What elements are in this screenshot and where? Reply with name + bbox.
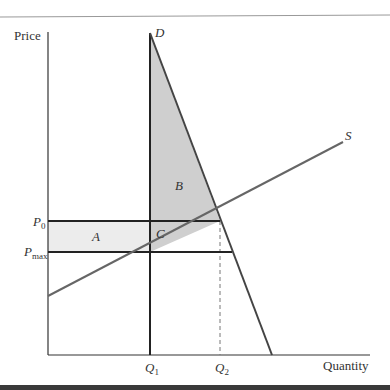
region-b-c-shading	[150, 33, 220, 252]
diagram-page: Price Quantity D S P0 Pmax Q1 Q2 A B C	[0, 0, 390, 390]
p0-label: P0	[32, 214, 46, 231]
p0-sub: 0	[41, 221, 46, 231]
q2-label: Q2	[215, 360, 229, 377]
region-c-label: C	[156, 226, 165, 241]
region-a-label: A	[91, 229, 100, 244]
p0-base: P	[32, 214, 41, 229]
top-rule	[0, 15, 390, 17]
x-axis-label: Quantity	[323, 358, 369, 373]
region-b-label: B	[175, 178, 183, 193]
demand-label: D	[154, 25, 165, 40]
price-ceiling-diagram: Price Quantity D S P0 Pmax Q1 Q2 A B C	[0, 0, 390, 390]
q1-label: Q1	[145, 360, 159, 377]
bottom-bar	[0, 385, 390, 390]
pmax-label: Pmax	[23, 244, 48, 261]
supply-label: S	[345, 128, 352, 143]
y-axis-label: Price	[14, 28, 41, 43]
pmax-sub: max	[32, 251, 48, 261]
q1-sub: 1	[154, 367, 159, 377]
pmax-base: P	[23, 244, 32, 259]
q2-sub: 2	[224, 367, 229, 377]
